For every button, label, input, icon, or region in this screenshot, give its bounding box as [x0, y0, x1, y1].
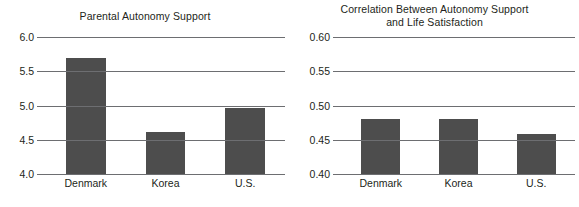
y-axis-tick-label: 0.50 [310, 100, 330, 112]
y-axis-tick-label: 0.40 [310, 168, 330, 180]
x-axis-category-label: Denmark [65, 177, 108, 189]
axis-tick [37, 106, 46, 107]
gridline [46, 37, 285, 38]
bar [225, 108, 265, 174]
axis-tick [333, 71, 342, 72]
plot-area: DenmarkKoreaU.S. 0.400.450.500.550.60 [342, 37, 575, 174]
chart-title: Parental Autonomy Support [0, 10, 290, 23]
y-axis-tick-label: 0.55 [310, 65, 330, 77]
x-axis-category-label: U.S. [526, 177, 546, 189]
y-axis-tick-label: 4.5 [19, 134, 34, 146]
axis-tick [37, 174, 46, 175]
axis-tick [333, 140, 342, 141]
bar [361, 119, 400, 174]
bar [439, 119, 478, 174]
gridline [342, 37, 575, 38]
y-axis-tick-label: 4.0 [19, 168, 34, 180]
y-axis-tick-label: 5.5 [19, 65, 34, 77]
y-axis-tick-label: 6.0 [19, 31, 34, 43]
x-axis-category-label: Denmark [360, 177, 403, 189]
x-axis-category-label: Korea [151, 177, 179, 189]
chart-title: Correlation Between Autonomy Support and… [290, 3, 579, 29]
dual-bar-chart-figure: Parental Autonomy Support DenmarkKoreaU.… [0, 0, 579, 207]
axis-tick [333, 174, 342, 175]
axis-tick [333, 37, 342, 38]
bar [66, 58, 106, 174]
axis-tick [37, 140, 46, 141]
gridline [46, 71, 285, 72]
x-axis-category-label: Korea [444, 177, 472, 189]
axis-tick [333, 106, 342, 107]
gridline [46, 174, 285, 175]
axis-tick [37, 37, 46, 38]
gridline [46, 140, 285, 141]
x-axis-category-label: U.S. [235, 177, 255, 189]
y-axis-tick-label: 0.60 [310, 31, 330, 43]
y-axis-tick-label: 5.0 [19, 100, 34, 112]
chart-panel-correlation-autonomy-life-satisfaction: Correlation Between Autonomy Support and… [290, 0, 579, 207]
gridline [342, 106, 575, 107]
gridline [342, 140, 575, 141]
chart-panel-parental-autonomy-support: Parental Autonomy Support DenmarkKoreaU.… [0, 0, 290, 207]
gridline [46, 106, 285, 107]
gridline [342, 71, 575, 72]
y-axis-tick-label: 0.45 [310, 134, 330, 146]
axis-tick [37, 71, 46, 72]
gridline [342, 174, 575, 175]
plot-area: DenmarkKoreaU.S. 4.04.55.05.56.0 [46, 37, 285, 174]
bar [146, 132, 186, 174]
